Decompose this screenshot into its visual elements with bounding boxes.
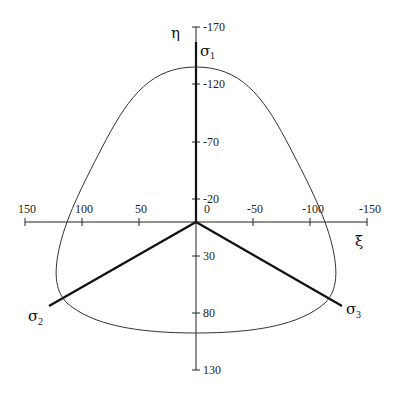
- sigma3-axis: [196, 222, 342, 306]
- svg-text:σ: σ: [200, 42, 210, 60]
- sigma2-label: σ 2: [28, 307, 43, 327]
- eta-tick-neg20: -20: [203, 192, 219, 206]
- eta-tick-neg170: -170: [203, 20, 225, 34]
- xi-tick-150: 150: [18, 202, 36, 216]
- xi-axis-label: ξ: [355, 232, 363, 250]
- svg-text:σ: σ: [346, 300, 356, 318]
- eta-tick-neg70: -70: [203, 135, 219, 149]
- svg-text:3: 3: [356, 309, 361, 320]
- xi-tick-50: 50: [135, 202, 147, 216]
- sigma3-label: σ 3: [346, 300, 361, 320]
- eta-tick-80: 80: [203, 306, 215, 320]
- eta-tick-30: 30: [203, 249, 215, 263]
- sigma2-axis: [49, 222, 196, 306]
- eta-axis-label: η: [171, 24, 180, 42]
- svg-text:2: 2: [38, 316, 43, 327]
- xi-tick-neg150: -150: [359, 202, 381, 216]
- eta-tick-130: 130: [203, 363, 221, 377]
- yield-locus-diagram: 150 100 50 0 -50 -100 -150 ξ -170 -120 -…: [0, 0, 397, 393]
- svg-text:σ: σ: [28, 307, 38, 325]
- svg-text:1: 1: [210, 50, 215, 61]
- xi-tick-100: 100: [75, 202, 93, 216]
- xi-tick-neg100: -100: [302, 202, 324, 216]
- sigma1-label: σ 1: [200, 42, 215, 61]
- eta-tick-labels: -170 -120 -70 -20 30 80 130: [203, 20, 225, 377]
- xi-tick-neg50: -50: [247, 202, 263, 216]
- eta-tick-neg120: -120: [203, 77, 225, 91]
